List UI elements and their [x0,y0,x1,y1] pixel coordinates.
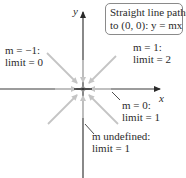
callout-box: Straight line paths to (0, 0): y = mx [105,3,183,35]
limit-text: limit = 1 [122,111,160,123]
callout-line-1: Straight line paths [110,6,178,19]
arrow-upper-right [89,56,116,83]
callout-line-2: to (0, 0): y = mx [110,19,178,32]
label-m-neg-one: m = −1: limit = 0 [5,44,43,68]
slope-text: m = 0: [122,99,160,111]
label-m-zero: m = 0: limit = 1 [122,99,160,123]
y-axis-label: y [73,5,78,17]
slope-text: m undefined: [92,130,150,142]
arrow-upper-left [47,53,77,83]
leader-m-zero [112,92,120,100]
limit-text: limit = 1 [92,142,150,154]
slope-text: m = −1: [5,44,43,56]
limit-text: limit = 2 [133,53,171,65]
label-m-undefined: m undefined: limit = 1 [92,130,150,154]
leader-lines [85,92,120,134]
label-m-one: m = 1: limit = 2 [133,41,171,65]
arrow-lower-left [48,95,77,124]
limit-text: limit = 0 [5,56,43,68]
arrow-lower-right [89,95,118,124]
slope-text: m = 1: [133,41,171,53]
